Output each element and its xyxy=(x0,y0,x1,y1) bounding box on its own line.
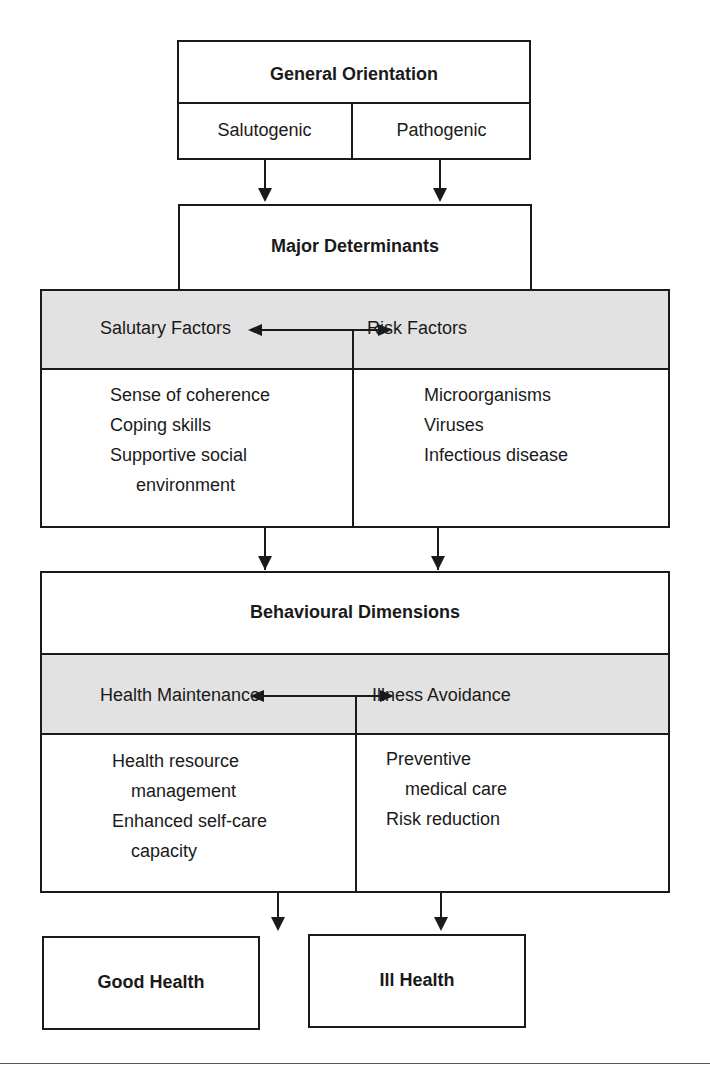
list-item: Sense of coherence xyxy=(110,380,270,410)
list-item: capacity xyxy=(112,836,267,866)
health-maintenance-label: Health Maintenance xyxy=(100,685,260,706)
list-item: Health resource xyxy=(112,746,267,776)
connector xyxy=(439,160,441,188)
diagram-canvas: General Orientation Salutogenic Pathogen… xyxy=(0,0,710,1088)
connector xyxy=(440,893,442,917)
arrow-down-icon xyxy=(431,556,445,570)
list-item: Enhanced self-care xyxy=(112,806,267,836)
arrow-left-icon xyxy=(248,324,262,336)
arrow-down-icon xyxy=(258,188,272,202)
ill-health-label: Ill Health xyxy=(308,970,526,991)
risk-factors-list: Microorganisms Viruses Infectious diseas… xyxy=(424,380,568,470)
arrow-right-icon xyxy=(378,324,392,336)
arrow-left-icon xyxy=(250,690,264,702)
list-item: Risk reduction xyxy=(386,804,507,834)
divider xyxy=(352,368,354,528)
arrow-down-icon xyxy=(434,917,448,931)
illness-avoidance-list: Preventive medical care Risk reduction xyxy=(386,744,507,834)
list-item: Coping skills xyxy=(110,410,270,440)
double-arrow-line xyxy=(262,329,378,331)
salutary-factors-list: Sense of coherence Coping skills Support… xyxy=(110,380,270,500)
divider xyxy=(177,102,531,104)
general-orientation-box xyxy=(177,40,531,160)
arrow-down-icon xyxy=(271,917,285,931)
page-rule xyxy=(0,1063,710,1064)
major-determinants-title: Major Determinants xyxy=(178,236,532,257)
arrow-right-icon xyxy=(380,690,394,702)
list-item: Viruses xyxy=(424,410,568,440)
arrow-down-icon xyxy=(258,556,272,570)
behavioural-dimensions-title: Behavioural Dimensions xyxy=(40,602,670,623)
connector xyxy=(352,329,354,369)
connector xyxy=(264,160,266,188)
divider xyxy=(355,733,357,893)
salutogenic-label: Salutogenic xyxy=(177,120,352,141)
list-item: environment xyxy=(110,470,270,500)
health-maintenance-list: Health resource management Enhanced self… xyxy=(112,746,267,866)
general-orientation-title: General Orientation xyxy=(177,64,531,85)
list-item: management xyxy=(112,776,267,806)
list-item: Preventive xyxy=(386,744,507,774)
double-arrow-line xyxy=(264,695,380,697)
pathogenic-label: Pathogenic xyxy=(352,120,531,141)
salutary-factors-label: Salutary Factors xyxy=(100,318,231,339)
connector xyxy=(355,695,357,735)
connector xyxy=(277,893,279,917)
arrow-down-icon xyxy=(433,188,447,202)
list-item: Infectious disease xyxy=(424,440,568,470)
good-health-label: Good Health xyxy=(42,972,260,993)
list-item: Microorganisms xyxy=(424,380,568,410)
list-item: medical care xyxy=(386,774,507,804)
list-item: Supportive social xyxy=(110,440,270,470)
